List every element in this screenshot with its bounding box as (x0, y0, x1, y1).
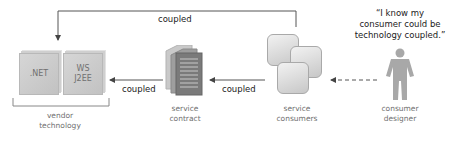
vendor-bracket (13, 98, 109, 106)
consumer-designer-label: consumer designer (365, 104, 435, 124)
service-contract-label: service contract (150, 104, 220, 124)
edge-label-top: coupled (158, 14, 192, 24)
designer-quote: “I know my consumer could be technology … (352, 8, 448, 41)
consumer-tile-3 (277, 62, 309, 94)
edge-label-consumers-contract: coupled (222, 84, 256, 94)
document-stack-icon (164, 45, 206, 97)
ws-j2ee-label: WS J2EE (64, 64, 102, 84)
ws-j2ee-box: WS J2EE (63, 53, 103, 95)
service-consumers-label: service consumers (262, 104, 332, 124)
person-icon (385, 48, 415, 100)
vendor-technology-label: vendor technology (20, 111, 100, 131)
edge-label-contract-vendor: coupled (122, 84, 156, 94)
dotnet-label: .NET (20, 69, 58, 79)
dotnet-box: .NET (19, 53, 59, 95)
